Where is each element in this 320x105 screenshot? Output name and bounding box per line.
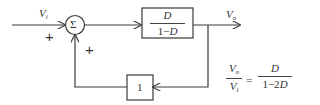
input-label: Vi	[39, 8, 48, 21]
forward-block-transfer: D 1−D	[150, 10, 185, 37]
tf-lhs-den: Vi	[230, 79, 239, 94]
plus-sign-input: +	[45, 29, 54, 44]
tf-lhs-num-sub: o	[236, 68, 240, 76]
tf-rhs-den: 1−2D	[262, 77, 287, 90]
tf-lhs-num: Vo	[229, 63, 239, 78]
forward-den-prefix: 1−	[158, 25, 170, 37]
feedback-gain: 1	[137, 82, 143, 93]
tf-equals: =	[246, 75, 252, 86]
feedback-return-line	[75, 35, 127, 87]
input-label-sub: i	[46, 13, 48, 21]
output-label: Vo	[226, 9, 236, 22]
plus-sign-feedback: +	[85, 42, 94, 57]
tf-rhs-num: D	[271, 63, 279, 76]
tf-lhs-num-var: V	[229, 62, 236, 74]
forward-numerator: D	[164, 10, 172, 23]
tf-lhs: Vo Vi	[226, 63, 242, 94]
input-label-var: V	[39, 7, 46, 19]
output-label-var: V	[226, 8, 233, 20]
forward-den-var: D	[169, 25, 177, 37]
tf-rhs: D 1−2D	[258, 63, 292, 90]
sigma-symbol: Σ	[70, 19, 76, 30]
output-label-sub: o	[233, 14, 237, 22]
tf-rhs-den-var: D	[280, 78, 288, 90]
tf-lhs-den-sub: i	[236, 86, 238, 94]
tf-rhs-den-prefix: 1−2	[262, 78, 279, 90]
forward-denominator: 1−D	[158, 24, 178, 37]
